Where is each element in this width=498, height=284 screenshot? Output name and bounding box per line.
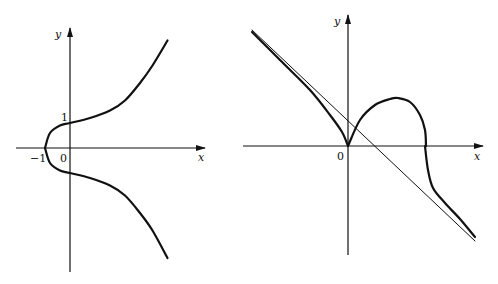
- figure-canvas: x y 0 −1 1 x y 0: [0, 0, 498, 284]
- left-plot: x y 0 −1 1: [16, 28, 205, 272]
- left-x-axis-label: x: [198, 151, 205, 164]
- right-curve-hump: [348, 98, 426, 146]
- left-curve-upper: [45, 41, 168, 149]
- right-curve-group: [252, 30, 475, 241]
- left-curve-group: [45, 41, 168, 259]
- right-asymptote: [252, 30, 475, 241]
- right-curve-left-branch: [252, 32, 348, 146]
- left-origin-label: 0: [60, 152, 67, 165]
- right-y-axis-label: y: [333, 15, 341, 28]
- left-x-neg-one-label: −1: [30, 152, 46, 165]
- left-y-axis-label: y: [54, 28, 62, 41]
- left-y-one-label: 1: [61, 111, 68, 124]
- right-x-axis-label: x: [474, 150, 481, 163]
- right-origin-label: 0: [337, 150, 344, 163]
- right-plot: x y 0: [243, 15, 483, 255]
- right-curve-right-branch: [425, 146, 475, 237]
